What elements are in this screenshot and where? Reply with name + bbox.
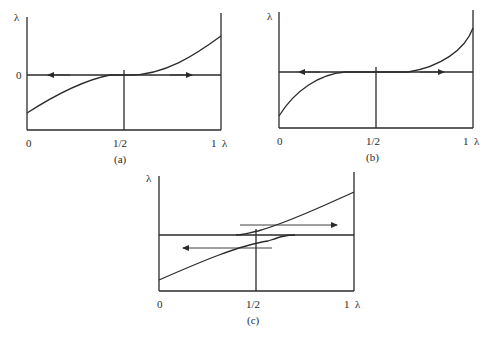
y-axis-label: λ bbox=[267, 10, 273, 22]
x-tick-half: 1/2 bbox=[246, 298, 260, 310]
x-tick-half: 1/2 bbox=[366, 135, 380, 147]
x-axis-label: λ bbox=[222, 137, 228, 149]
panel-caption: (c) bbox=[247, 314, 260, 327]
y-tick-zero: 0 bbox=[16, 69, 22, 81]
x-tick-0: 0 bbox=[26, 137, 32, 149]
diagram-canvas: λ 0 0 1/2 1 λ (a) λ 0 1/2 1 λ (b) λ 0 bbox=[0, 0, 493, 338]
panel-caption: (b) bbox=[366, 151, 379, 164]
panel-c: λ 0 1/2 1 λ (c) bbox=[146, 172, 361, 327]
panel-a: λ 0 0 1/2 1 λ (a) bbox=[14, 11, 228, 166]
x-tick-half: 1/2 bbox=[113, 137, 127, 149]
x-axis-label: λ bbox=[355, 298, 361, 310]
x-tick-1: 1 bbox=[211, 137, 217, 149]
x-tick-1: 1 bbox=[344, 298, 350, 310]
panel-b: λ 0 1/2 1 λ (b) bbox=[267, 10, 480, 164]
x-tick-1: 1 bbox=[463, 135, 469, 147]
x-tick-0: 0 bbox=[277, 135, 283, 147]
y-axis-label: λ bbox=[146, 172, 152, 184]
y-axis-label: λ bbox=[14, 11, 20, 23]
x-tick-0: 0 bbox=[157, 298, 163, 310]
panel-caption: (a) bbox=[114, 153, 127, 166]
upper-branch bbox=[236, 192, 354, 235]
x-axis-label: λ bbox=[474, 135, 480, 147]
lower-branch bbox=[159, 235, 295, 280]
